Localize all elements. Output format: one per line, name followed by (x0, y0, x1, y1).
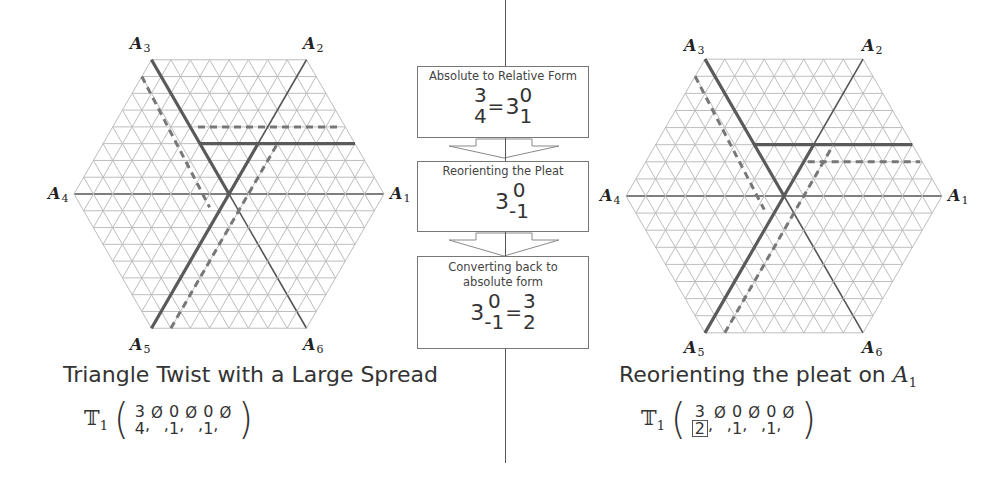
right-twist-notation: 𝕋1(32,Ø,01,Ø,01,Ø) (641, 401, 822, 439)
grid-line (656, 59, 765, 247)
empty-pleat: Ø (219, 404, 231, 422)
axis-label-a1: A1 (948, 188, 968, 206)
relative-sup: 0 (488, 291, 501, 312)
pair-bottom: 2 (523, 312, 536, 333)
axis-label-a3: A3 (684, 38, 704, 56)
absolute-pair: 3 2 (523, 291, 536, 333)
axis-letter: A (893, 362, 909, 387)
grid-line (764, 59, 892, 281)
grid-line (676, 59, 804, 281)
grid-line (656, 145, 765, 333)
pair-top: 3 (523, 291, 536, 312)
pleat-pair: 01 (169, 403, 179, 437)
axis-label-a2: A2 (862, 38, 882, 56)
down-arrow-icon (449, 233, 559, 256)
step-equation: 3 0 -1 (418, 180, 588, 222)
caption-axis-symbol: A1 (893, 362, 917, 387)
grid-line (725, 59, 873, 315)
thick-pleat-line (152, 144, 259, 329)
relative-base: 3 (505, 94, 519, 119)
comma: , (145, 415, 150, 434)
comma: , (727, 415, 732, 434)
pleat-pair: 32 (692, 403, 708, 437)
relative-sub: -1 (509, 201, 529, 222)
pleat-pair: 01 (203, 403, 213, 437)
comma: , (742, 415, 747, 434)
relative-sub: -1 (484, 312, 504, 333)
grid-line (248, 60, 355, 244)
grid-line (103, 60, 210, 244)
right-caption: Reorienting the pleat on A1 (619, 362, 917, 390)
grid-line (123, 60, 249, 277)
empty-pleat: Ø (714, 404, 726, 422)
pleat-pair: 34 (135, 403, 145, 437)
left-hexagon-grid (74, 60, 384, 328)
empty-pleat: Ø (782, 404, 794, 422)
comma: , (179, 415, 184, 434)
grid-line (695, 59, 843, 315)
thick-pleat-line (705, 145, 814, 333)
axis-label-a6: A6 (303, 337, 323, 355)
grid-line (843, 59, 932, 212)
highlighted-value: 2 (692, 420, 708, 437)
twist-symbol: 𝕋1 (641, 406, 665, 433)
pair-bottom: 4 (474, 106, 487, 127)
open-paren: ( (671, 399, 686, 441)
comma: , (776, 415, 781, 434)
axis-label-a2: A2 (303, 36, 323, 54)
step-box-absolute-to-relative: Absolute to Relative Form 3 4 = 3 0 1 (417, 66, 589, 138)
grid-line (103, 144, 210, 328)
grid-line (804, 59, 913, 247)
empty-pleat: Ø (185, 404, 197, 422)
axis-label-a6: A6 (862, 340, 882, 358)
relative-sup: 0 (519, 85, 532, 106)
grid-line (210, 60, 336, 277)
step-equation: 3 4 = 3 0 1 (418, 85, 588, 127)
empty-pleat: Ø (151, 404, 163, 422)
open-paren: ( (114, 399, 129, 441)
relative-scripts: 0 -1 (484, 291, 504, 333)
grid-line (636, 59, 725, 212)
axis-label-a4: A4 (600, 188, 620, 206)
right-hexagon-grid (626, 59, 942, 333)
comma: , (198, 415, 203, 434)
grid-line (695, 76, 843, 332)
step-equation: 3 0 -1 = 3 2 (418, 291, 588, 333)
grid-line (142, 60, 287, 311)
step-title: Reorienting the Pleat (418, 164, 588, 179)
grid-line (636, 179, 725, 332)
axis-index: 1 (909, 375, 917, 390)
down-arrow-icon (449, 139, 559, 158)
grid-line (84, 177, 171, 328)
grid-line (843, 179, 932, 332)
grid-line (171, 60, 316, 311)
relative-base: 3 (470, 300, 484, 325)
axis-label-a1: A1 (390, 186, 410, 204)
axis-label-a3: A3 (130, 36, 150, 54)
relative-base: 3 (495, 189, 509, 214)
right-caption-text: Reorienting the pleat on (619, 362, 886, 387)
grid-line (804, 145, 913, 333)
pleat-pair: 01 (766, 403, 776, 437)
axis-label-a4: A4 (48, 186, 68, 204)
pleat-pair: 01 (732, 403, 742, 437)
absolute-pair: 3 4 (474, 85, 487, 127)
comma: , (213, 415, 218, 434)
grid-line (248, 144, 355, 328)
twist-symbol: 𝕋1 (84, 406, 108, 433)
close-paren: ) (801, 399, 816, 441)
empty-pleat: Ø (748, 404, 760, 422)
step-box-reorienting: Reorienting the Pleat 3 0 -1 (417, 161, 589, 232)
relative-sub: 1 (519, 106, 532, 127)
step-title: Converting back to absolute form (443, 260, 563, 290)
pair-top: 3 (474, 85, 487, 106)
comma: , (761, 415, 766, 434)
left-twist-notation: 𝕋1(34,Ø,01,Ø,01,Ø) (84, 401, 259, 439)
equals-sign: = (488, 94, 505, 118)
axis-label-a5: A5 (130, 337, 150, 355)
step-box-convert-back: Converting back to absolute form 3 0 -1 … (417, 256, 589, 349)
grid-line (142, 77, 287, 328)
comma: , (708, 415, 713, 434)
left-caption: Triangle Twist with a Large Spread (63, 362, 438, 387)
close-paren: ) (238, 399, 253, 441)
